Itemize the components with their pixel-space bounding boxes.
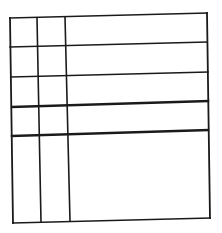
row-divider-1 <box>10 42 207 47</box>
row-divider-4 <box>12 130 208 136</box>
top-border <box>10 13 207 18</box>
column-divider-2 <box>65 17 70 221</box>
left-border <box>10 18 13 223</box>
right-border <box>207 13 210 218</box>
column-divider-1 <box>37 18 41 222</box>
row-divider-3 <box>12 101 208 107</box>
bottom-border <box>13 218 210 223</box>
row-divider-2 <box>11 72 208 77</box>
table-grid-diagram <box>0 0 222 233</box>
